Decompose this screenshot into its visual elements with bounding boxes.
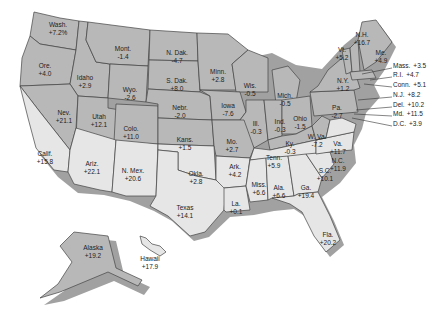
state-label: Iowa-7.6 (221, 102, 235, 117)
state-value: +11.5 (407, 110, 423, 117)
state-name: S. Dak. (166, 77, 187, 85)
state-label: Fla.+20.2 (320, 231, 336, 246)
state-label: W. Va.-7.2 (308, 133, 327, 148)
state-value: -0.3 (250, 128, 261, 136)
state-hawaii (140, 236, 166, 256)
state-label: S. Dak.+8.0 (166, 77, 187, 92)
state-value: +22.1 (84, 168, 100, 176)
state-value: -1.5 (293, 123, 307, 131)
state-label: Calif.+15.8 (37, 150, 53, 165)
state-value: +2.7 (226, 146, 239, 154)
state-value: +4.9 (375, 57, 388, 65)
callout-label: Md.+11.5 (393, 110, 423, 117)
state-value: -0.3 (274, 126, 285, 134)
state-name: Conn. (393, 81, 410, 88)
state-value: +20.2 (320, 239, 336, 247)
state-name: Colo. (123, 125, 139, 133)
state-value: +6.6 (251, 189, 266, 197)
callout-label: D.C.+3.9 (393, 120, 422, 127)
state-label: Mont.-1.4 (115, 45, 131, 60)
state-label: Ga.+19.4 (298, 184, 314, 199)
state-name: Ky. (284, 140, 295, 148)
state-name: Mont. (115, 45, 131, 53)
state-label: Ky.-0.3 (284, 140, 295, 155)
state-name: Mich. (277, 92, 293, 100)
callout-label: N.J.+8.2 (393, 91, 420, 98)
state-mass (350, 70, 376, 80)
state-name: Nev. (56, 109, 72, 117)
state-label: La.+0.1 (230, 200, 243, 215)
state-label: Utah+12.1 (91, 113, 107, 128)
state-value: +11.7 (330, 148, 346, 156)
state-label: Mo.+2.7 (226, 138, 239, 153)
state-value: +3.9 (409, 120, 422, 127)
state-label: Wyo.-2.6 (123, 86, 138, 101)
state-value: -0.5 (244, 90, 257, 98)
state-value: +15.8 (37, 158, 53, 166)
state-label: Ariz.+22.1 (84, 160, 100, 175)
state-name: Mass. (393, 62, 410, 69)
state-value: +14.1 (177, 212, 194, 220)
state-label: Vt.+5.2 (336, 46, 349, 61)
state-label: Tenn.+5.9 (266, 154, 282, 169)
state-value: +2.9 (77, 82, 93, 90)
state-label: Wash.+7.2% (49, 21, 68, 36)
state-label: N. Mex.+20.6 (122, 167, 144, 182)
state-name: Tenn. (266, 154, 282, 162)
state-value: +1.2 (337, 85, 350, 93)
state-value: +17.9 (140, 263, 160, 271)
state-value: -7.6 (221, 110, 235, 118)
state-label: N.C.+11.9 (330, 157, 346, 172)
state-name: Ala. (273, 184, 286, 192)
state-value: +0.1 (230, 208, 243, 216)
state-name: Utah (91, 113, 107, 121)
state-value: +16.7 (354, 39, 370, 47)
state-label: Okla.+2.8 (188, 170, 203, 185)
state-name: Del. (393, 101, 405, 108)
state-value: +11.0 (123, 133, 139, 141)
state-name: Calif. (37, 150, 53, 158)
state-value: +5.9 (266, 162, 282, 170)
state-value: +10.1 (317, 175, 333, 183)
state-label: N.H.+16.7 (354, 31, 370, 46)
state-value: -2.7 (331, 112, 342, 120)
state-value: +3.5 (413, 62, 426, 69)
state-value: +2.8 (188, 178, 203, 186)
state-value: -1.4 (115, 53, 131, 61)
state-label: Me.+4.9 (375, 49, 388, 64)
state-name: Minn. (210, 68, 226, 76)
state-name: N.H. (354, 31, 370, 39)
state-name: Mo. (226, 138, 239, 146)
state-value: -2.6 (123, 94, 138, 102)
state-label: Miss.+6.6 (251, 181, 266, 196)
state-name: Va. (330, 140, 346, 148)
state-name: Texas (177, 204, 194, 212)
state-value: +7.2% (49, 29, 68, 37)
state-label: Ohio-1.5 (293, 115, 307, 130)
state-value: +5.1 (413, 81, 426, 88)
state-label: Nev.+21.1 (56, 109, 72, 124)
state-value: +1.5 (177, 144, 194, 152)
state-name: Ore. (39, 62, 52, 70)
state-label: Minn.+2.8 (210, 68, 226, 83)
state-label: Alaska+19.2 (83, 244, 103, 259)
state-label: N.Y.+1.2 (337, 77, 350, 92)
state-name: N.C. (330, 157, 346, 165)
state-label: Ore.+4.0 (39, 62, 52, 77)
state-value: +20.6 (122, 175, 144, 183)
state-value: +12.1 (91, 121, 107, 129)
us-map (0, 0, 431, 334)
state-name: Ark. (229, 163, 242, 171)
state-name: N. Mex. (122, 167, 144, 175)
state-value: -4.7 (166, 57, 188, 65)
state-name: Nebr. (172, 104, 188, 112)
state-name: W. Va. (308, 133, 327, 141)
state-label: Wis.-0.5 (244, 82, 257, 97)
state-value: -0.3 (284, 148, 295, 156)
state-label: Pa.-2.7 (331, 104, 342, 119)
state-name: Ohio (293, 115, 307, 123)
state-label: Ark.+4.2 (229, 163, 242, 178)
state-value: -0.5 (277, 100, 293, 108)
state-name: Idaho (77, 74, 93, 82)
state-name: N. Dak. (166, 49, 188, 57)
